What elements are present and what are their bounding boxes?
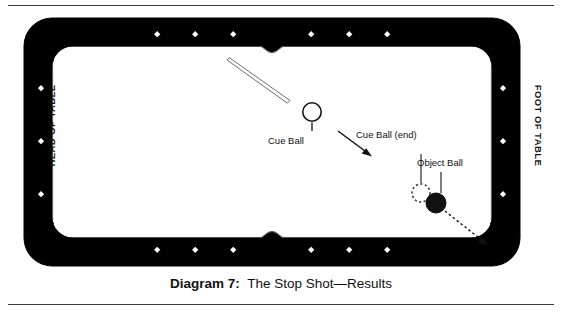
cue-ball-end-label: Cue Ball (end) [356,129,417,140]
pool-table-svg: Cue Ball Cue Ball (end) Object Ball [22,16,522,268]
cue-ball-label: Cue Ball [268,135,304,146]
caption-title: The Stop Shot—Results [247,276,392,291]
object-ball [426,193,446,213]
diagram-figure: Cue Ball Cue Ball (end) Object Ball HEAD… [0,0,562,315]
figure-top-rule [8,5,554,6]
object-ball-label: Object Ball [417,157,463,168]
head-of-table-label: HEAD OF TABLE [46,84,57,166]
cue-ball [303,103,321,121]
right-rail [490,60,514,224]
pool-table: Cue Ball Cue Ball (end) Object Ball HEAD… [22,16,522,268]
figure-bottom-rule [8,304,554,305]
foot-of-table-label: FOOT OF TABLE [533,85,544,167]
caption-number: Diagram 7: [170,276,240,291]
figure-caption: Diagram 7: The Stop Shot—Results [0,276,562,291]
